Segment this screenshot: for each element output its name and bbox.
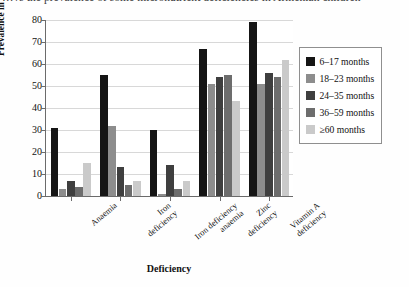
bar [67,181,75,196]
legend-item-label: 6–17 months [320,56,370,67]
x-axis-tick-label: Anaemia [89,201,119,228]
x-axis-tick-label: Zinc deficiency [239,201,279,239]
bar [150,130,158,196]
bar [133,181,141,196]
bar [249,22,257,196]
legend-item: 36–59 months [306,104,374,121]
y-axis-tick [41,20,46,21]
legend-item-label: 36–59 months [320,107,375,118]
bar [183,181,191,196]
legend-item: ≥60 months [306,121,374,138]
y-axis-tick-label: 70 [16,37,42,47]
bar [59,189,67,196]
bar [224,75,232,196]
y-axis-tick-label: 40 [16,103,42,113]
bar [274,77,282,196]
legend: 6–17 months18–23 months24–35 months36–59… [299,47,382,144]
legend-item: 18–23 months [306,70,374,87]
legend-swatch-icon [306,108,315,117]
y-axis-tick [41,64,46,65]
bar [232,101,240,196]
figure-caption-text: …vs the prevalence of some micronutrient… [2,0,360,3]
x-axis-tick-label: Iron deficiency anaemia [193,201,245,249]
legend-item-label: 18–23 months [320,73,375,84]
legend-swatch-icon [306,74,315,83]
bar [108,126,116,196]
y-axis-tick [41,174,46,175]
bar [158,194,166,196]
bar [125,185,133,196]
y-axis-tick [41,152,46,153]
y-axis-tick [41,108,46,109]
y-axis-tick-label: 10 [16,169,42,179]
legend-item: 24–35 months [306,87,374,104]
y-axis-tick-label: 60 [16,59,42,69]
x-axis-tick-labels: AnaemiaIron deficiencyIron deficiency an… [45,199,293,257]
bar [75,187,83,196]
bar [208,84,216,196]
x-axis-title: Deficiency [45,263,293,274]
legend-item-label: 24–35 months [320,90,375,101]
bar [100,75,108,196]
y-axis-tick-label: 20 [16,147,42,157]
y-axis-tick-label: 30 [16,125,42,135]
bar [265,73,273,196]
bar [282,60,290,196]
x-axis-tick-label: Iron deficiency [140,201,180,239]
y-axis-tick-label: 50 [16,81,42,91]
legend-item-label: ≥60 months [320,124,366,135]
legend-swatch-icon [306,57,315,66]
plot-area [45,21,293,197]
y-axis-tick-label: 80 [16,15,42,25]
legend-swatch-icon [306,91,315,100]
y-axis-tick [41,42,46,43]
y-axis-title: Prevalence in young children (%) [0,0,6,56]
bar [51,128,59,196]
legend-swatch-icon [306,125,315,134]
bar [83,163,91,196]
legend-item: 6–17 months [306,53,374,70]
gridline [46,20,293,21]
bar [257,84,265,196]
bar [174,189,182,196]
figure-caption: …vs the prevalence of some micronutrient… [0,0,409,11]
y-axis-tick-label: 0 [16,191,42,201]
x-axis-tick-label: Vitamin A deficiency [289,201,329,239]
y-axis-tick [41,196,46,197]
bar [166,165,174,196]
figure: …vs the prevalence of some micronutrient… [0,0,409,287]
y-axis-tick-labels: 01020304050607080 [12,21,42,197]
y-axis-tick [41,130,46,131]
bar [199,49,207,196]
bar [216,77,224,196]
y-axis-tick [41,86,46,87]
bar [117,167,125,196]
